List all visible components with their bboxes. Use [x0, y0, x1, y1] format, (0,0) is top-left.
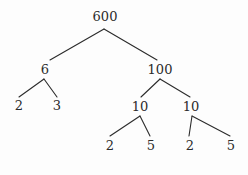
- tree-edge: [104, 29, 157, 60]
- tree-edge: [140, 116, 150, 136]
- tree-node-n5a: 5: [147, 139, 155, 152]
- tree-node-n2a: 2: [15, 99, 23, 112]
- tree-node-n6: 6: [41, 63, 49, 76]
- tree-edge: [44, 79, 57, 97]
- tree-edge: [189, 116, 192, 136]
- tree-node-n3a: 3: [53, 99, 61, 112]
- tree-node-n10a: 10: [132, 100, 149, 113]
- tree-edge: [192, 116, 230, 136]
- tree-edge: [141, 79, 160, 97]
- tree-edge: [110, 116, 140, 136]
- factor-tree-diagram: 60061002310102525: [0, 0, 248, 175]
- tree-edge: [160, 79, 190, 97]
- tree-edge: [19, 79, 44, 97]
- tree-node-n10b: 10: [183, 100, 200, 113]
- tree-node-n100: 100: [148, 63, 173, 76]
- tree-node-n2c: 2: [186, 139, 194, 152]
- tree-node-n2b: 2: [106, 139, 114, 152]
- tree-node-root: 600: [93, 10, 118, 23]
- tree-node-n5b: 5: [227, 139, 235, 152]
- edge-group: [19, 29, 230, 136]
- tree-edge: [50, 29, 104, 60]
- tree-edges-layer: [0, 0, 248, 175]
